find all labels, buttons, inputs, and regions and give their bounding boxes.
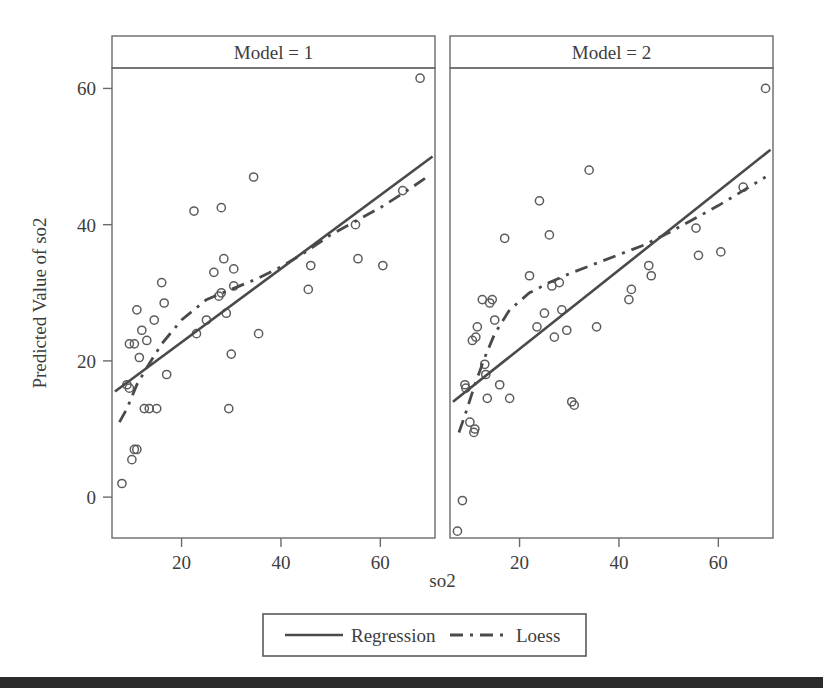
data-point <box>190 207 198 215</box>
x-tick-label-1-2: 60 <box>371 552 390 573</box>
data-point <box>473 323 481 331</box>
data-point <box>230 265 238 273</box>
x-axis-title: so2 <box>429 570 455 591</box>
data-point <box>525 272 533 280</box>
data-point <box>717 248 725 256</box>
data-point <box>160 299 168 307</box>
data-point <box>163 370 171 378</box>
data-point <box>307 261 315 269</box>
data-point <box>128 456 136 464</box>
data-point <box>533 323 541 331</box>
data-point <box>645 261 653 269</box>
data-point <box>501 234 509 242</box>
data-point <box>130 340 138 348</box>
data-point <box>692 224 700 232</box>
data-point <box>158 278 166 286</box>
panel-content-2 <box>453 84 771 535</box>
legend-label-dashed: Loess <box>516 625 560 646</box>
data-point <box>133 306 141 314</box>
data-point <box>254 330 262 338</box>
regression-line-2 <box>453 150 771 402</box>
data-point <box>491 316 499 324</box>
data-point <box>453 527 461 535</box>
y-tick-label-0: 0 <box>87 487 97 508</box>
loess-curve-2 <box>459 177 766 432</box>
data-point <box>458 496 466 504</box>
data-point <box>585 166 593 174</box>
y-tick-label-1: 20 <box>77 351 96 372</box>
x-tick-label-2-1: 40 <box>609 552 628 573</box>
data-point <box>150 316 158 324</box>
data-point <box>647 272 655 280</box>
data-point <box>227 350 235 358</box>
data-point <box>217 204 225 212</box>
data-point <box>496 381 504 389</box>
x-tick-label-1-1: 40 <box>271 552 290 573</box>
panel-title-2: Model = 2 <box>572 42 651 63</box>
legend-label-solid: Regression <box>351 625 436 646</box>
data-point <box>540 309 548 317</box>
data-point <box>592 323 600 331</box>
data-point <box>416 74 424 82</box>
data-point <box>761 84 769 92</box>
data-point <box>627 285 635 293</box>
data-point <box>354 255 362 263</box>
panel-title-1: Model = 1 <box>234 42 313 63</box>
data-point <box>379 261 387 269</box>
data-point <box>694 251 702 259</box>
data-point <box>210 268 218 276</box>
data-point <box>483 394 491 402</box>
scatter-plot-figure: Model = 12040600204060Model = 2204060so2… <box>0 0 823 688</box>
data-point <box>250 173 258 181</box>
data-point <box>563 326 571 334</box>
scan-artifact-bar <box>0 677 823 688</box>
panel-frame-2 <box>450 68 773 538</box>
panel-content-1 <box>115 74 433 487</box>
data-point <box>625 295 633 303</box>
data-point <box>118 479 126 487</box>
regression-line-1 <box>115 157 433 392</box>
y-tick-label-2: 40 <box>77 215 96 236</box>
data-point <box>138 326 146 334</box>
data-point <box>135 353 143 361</box>
loess-curve-1 <box>119 178 425 422</box>
data-point <box>225 404 233 412</box>
data-point <box>535 197 543 205</box>
data-point <box>550 333 558 341</box>
data-point <box>304 285 312 293</box>
y-axis-title: Predicted Value of so2 <box>29 217 50 388</box>
x-tick-label-2-2: 60 <box>709 552 728 573</box>
x-tick-label-1-0: 20 <box>172 552 191 573</box>
y-tick-label-3: 60 <box>77 78 96 99</box>
figure-container: Model = 12040600204060Model = 2204060so2… <box>0 0 823 688</box>
data-point <box>220 255 228 263</box>
data-point <box>545 231 553 239</box>
data-point <box>506 394 514 402</box>
x-tick-label-2-0: 20 <box>510 552 529 573</box>
data-point <box>143 336 151 344</box>
